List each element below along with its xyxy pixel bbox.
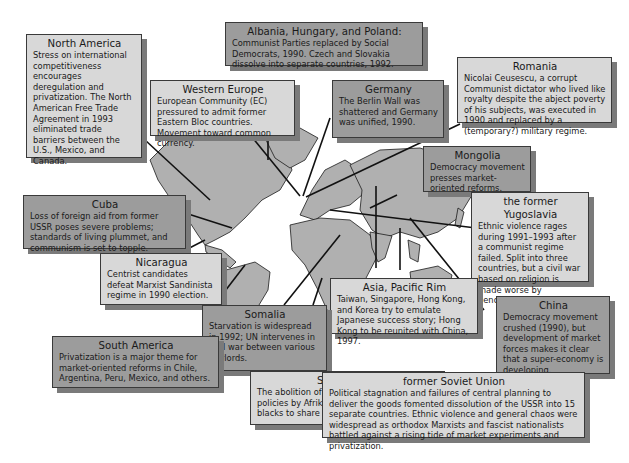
callout-body: Ethnic violence rages during 1991–1993 a… [478, 221, 583, 306]
callout-south-america: South America Privatization is a major t… [52, 336, 219, 388]
callout-germany: Germany The Berlin Wall was shattered an… [332, 80, 444, 138]
callout-title: North America [33, 37, 136, 50]
callout-body: European Community (EC) pressured to adm… [157, 96, 289, 149]
callout-title: Asia, Pacific Rim [337, 281, 472, 294]
callout-romania: Romania Nicolai Ceusescu, a corrupt Comm… [457, 57, 612, 123]
callout-somalia: Somalia Starvation is widespread in 1992… [202, 305, 327, 371]
southeast-asia-landmass [408, 240, 420, 262]
callout-title: Western Europe [157, 83, 289, 96]
callout-north-america: North America Stress on international co… [26, 34, 142, 158]
callout-asia-pacific-rim: Asia, Pacific Rim Taiwan, Singapore, Hon… [330, 278, 478, 334]
callout-body: Democracy movement presses market-orient… [430, 162, 525, 194]
callout-nicaragua: Nicaragua Centrist candidates defeat Mar… [100, 253, 222, 305]
callout-title: Somalia [209, 308, 321, 321]
callout-title: Cuba [30, 198, 180, 211]
callout-albania-hungary-poland: Albania, Hungary, and Poland: Communist … [225, 22, 423, 66]
callout-body: Political stagnation and failures of cen… [329, 388, 579, 452]
callout-body: Taiwan, Singapore, Hong Kong, and Korea … [337, 294, 472, 347]
callout-title: Germany [339, 83, 438, 96]
callout-body: Communist Parties replaced by Social Dem… [232, 38, 417, 70]
callout-title: former Soviet Union [329, 375, 579, 388]
callout-china: China Democracy movement crushed (1990),… [496, 296, 610, 374]
callout-body: Nicolai Ceusescu, a corrupt Communist di… [464, 73, 606, 137]
callout-body: Democracy movement crushed (1990), but d… [503, 312, 604, 376]
callout-body: Privatization is a major theme for marke… [59, 352, 213, 384]
callout-title: Albania, Hungary, and Poland: [232, 25, 417, 38]
callout-title: South America [59, 339, 213, 352]
callout-body: Loss of foreign aid from former USSR pos… [30, 211, 180, 253]
callout-title: China [503, 299, 604, 312]
callout-cuba: Cuba Loss of foreign aid from former USS… [23, 195, 186, 249]
callout-body: Stress on international competitiveness … [33, 50, 136, 167]
callout-former-soviet-union: former Soviet Union Political stagnation… [322, 372, 585, 438]
callout-title: Nicaragua [107, 256, 216, 269]
callout-body: Starvation is widespread in 1992; UN int… [209, 321, 321, 363]
callout-title: the former Yugoslavia [478, 195, 583, 221]
callout-title: Mongolia [430, 149, 525, 162]
callout-western-europe: Western Europe European Community (EC) p… [150, 80, 295, 136]
callout-title: Romania [464, 60, 606, 73]
callout-former-yugoslavia: the former Yugoslavia Ethnic violence ra… [471, 192, 589, 282]
callout-mongolia: Mongolia Democracy movement presses mark… [423, 146, 531, 192]
callout-body: Centrist candidates defeat Marxist Sandi… [107, 269, 216, 301]
callout-body: The Berlin Wall was shattered and German… [339, 96, 438, 128]
